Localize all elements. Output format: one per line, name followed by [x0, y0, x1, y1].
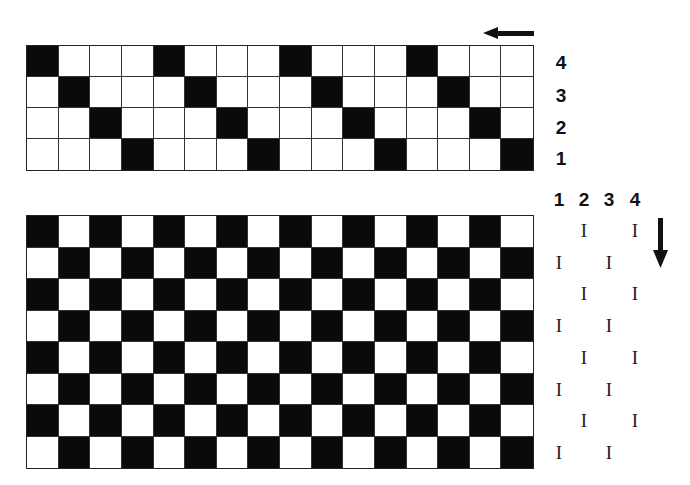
grid-cell	[312, 374, 344, 406]
grid-cell	[407, 248, 439, 280]
grid-cell	[27, 46, 59, 77]
grid-cell	[122, 108, 154, 139]
tie-mark: I	[606, 379, 612, 401]
grid-cell	[438, 77, 470, 108]
tie-mark: I	[632, 410, 638, 432]
grid-cell	[90, 311, 122, 343]
grid-cell	[27, 248, 59, 280]
threading-grid	[26, 45, 534, 171]
grid-cell	[470, 216, 502, 248]
grid-cell	[154, 405, 186, 437]
grid-cell	[375, 108, 407, 139]
grid-cell	[90, 108, 122, 139]
grid-cell	[375, 139, 407, 170]
tie-mark: I	[556, 252, 562, 274]
grid-cell	[280, 311, 312, 343]
grid-cell	[280, 77, 312, 108]
grid-cell	[185, 108, 217, 139]
grid-cell	[59, 248, 91, 280]
grid-cell	[59, 108, 91, 139]
tie-mark: I	[581, 220, 587, 242]
grid-cell	[312, 248, 344, 280]
grid-cell	[501, 216, 533, 248]
grid-cell	[27, 311, 59, 343]
grid-cell	[122, 342, 154, 374]
grid-cell	[438, 248, 470, 280]
grid-cell	[343, 139, 375, 170]
grid-cell	[438, 108, 470, 139]
grid-cell	[90, 216, 122, 248]
grid-cell	[90, 279, 122, 311]
grid-cell	[438, 311, 470, 343]
grid-cell	[185, 437, 217, 469]
grid-cell	[501, 342, 533, 374]
grid-cell	[122, 248, 154, 280]
grid-cell	[280, 279, 312, 311]
grid-cell	[27, 139, 59, 170]
grid-cell	[375, 77, 407, 108]
grid-cell	[407, 311, 439, 343]
grid-cell	[280, 374, 312, 406]
grid-cell	[154, 342, 186, 374]
grid-cell	[59, 374, 91, 406]
grid-cell	[217, 311, 249, 343]
grid-cell	[407, 342, 439, 374]
grid-cell	[375, 248, 407, 280]
tie-mark: I	[606, 252, 612, 274]
grid-cell	[90, 374, 122, 406]
grid-cell	[122, 216, 154, 248]
grid-cell	[185, 46, 217, 77]
grid-cell	[154, 216, 186, 248]
grid-cell	[122, 279, 154, 311]
grid-cell	[470, 77, 502, 108]
grid-cell	[248, 46, 280, 77]
grid-cell	[122, 374, 154, 406]
grid-cell	[90, 139, 122, 170]
grid-cell	[280, 437, 312, 469]
grid-cell	[27, 108, 59, 139]
grid-cell	[407, 437, 439, 469]
grid-cell	[185, 139, 217, 170]
tie-mark: I	[556, 315, 562, 337]
grid-cell	[438, 139, 470, 170]
grid-cell	[280, 216, 312, 248]
grid-cell	[470, 437, 502, 469]
grid-cell	[27, 279, 59, 311]
grid-cell	[343, 311, 375, 343]
grid-cell	[217, 279, 249, 311]
grid-cell	[312, 139, 344, 170]
grid-cell	[122, 46, 154, 77]
grid-cell	[27, 374, 59, 406]
tie-mark: I	[556, 379, 562, 401]
grid-cell	[407, 46, 439, 77]
grid-cell	[27, 216, 59, 248]
grid-cell	[343, 216, 375, 248]
grid-cell	[248, 405, 280, 437]
grid-cell	[154, 279, 186, 311]
tie-mark: I	[556, 442, 562, 464]
grid-cell	[501, 437, 533, 469]
grid-cell	[185, 311, 217, 343]
tie-mark: I	[581, 283, 587, 305]
grid-cell	[217, 437, 249, 469]
grid-cell	[470, 311, 502, 343]
grid-cell	[90, 46, 122, 77]
grid-cell	[501, 374, 533, 406]
shaft-header: 2	[574, 189, 594, 211]
grid-cell	[438, 279, 470, 311]
grid-cell	[122, 77, 154, 108]
grid-cell	[375, 46, 407, 77]
grid-cell	[470, 108, 502, 139]
row-label: 1	[551, 148, 571, 170]
grid-cell	[312, 437, 344, 469]
grid-cell	[438, 437, 470, 469]
grid-cell	[248, 248, 280, 280]
grid-cell	[312, 216, 344, 248]
grid-cell	[407, 405, 439, 437]
grid-cell	[27, 437, 59, 469]
grid-cell	[90, 248, 122, 280]
grid-cell	[59, 77, 91, 108]
shaft-header: 3	[599, 189, 619, 211]
grid-cell	[248, 374, 280, 406]
grid-cell	[217, 108, 249, 139]
